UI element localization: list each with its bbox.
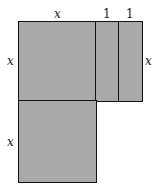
top-label-1a: 1 bbox=[103, 8, 111, 20]
tile-unit-strip-1 bbox=[95, 21, 120, 102]
left-label-x-top: x bbox=[7, 55, 14, 67]
top-label-1b: 1 bbox=[126, 8, 134, 20]
tile-x-squared-bottom bbox=[18, 100, 97, 183]
tile-x-squared-top bbox=[18, 21, 97, 102]
top-label-x: x bbox=[54, 8, 61, 20]
right-label-x: x bbox=[145, 55, 152, 67]
left-label-x-bottom: x bbox=[7, 136, 14, 148]
tile-unit-strip-2 bbox=[118, 21, 143, 102]
